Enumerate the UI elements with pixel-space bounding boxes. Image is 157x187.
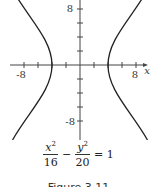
figure-caption: Figure 3.11 [0, 181, 157, 187]
x-max-label: 8 [132, 69, 138, 80]
denominator-20: 20 [76, 155, 90, 168]
fraction-x: x2 16 [43, 141, 58, 168]
exponent-x: 2 [52, 140, 56, 148]
hyperbola-right-branch [108, 0, 148, 140]
minus-sign: − [62, 148, 71, 161]
denominator-16: 16 [44, 155, 58, 168]
hyperbola-plot: -8 8 x 8 -8 [0, 0, 157, 140]
fraction-y: y2 20 [75, 141, 90, 168]
exponent-y: 2 [83, 140, 87, 148]
x-min-label: -8 [16, 69, 26, 80]
equals-one: = 1 [94, 148, 114, 161]
y-min-label: -8 [65, 116, 75, 127]
x-axis-label: x [144, 65, 150, 76]
y-max-label: 8 [67, 3, 73, 14]
hyperbola-equation: x2 16 − y2 20 = 1 [0, 141, 157, 168]
